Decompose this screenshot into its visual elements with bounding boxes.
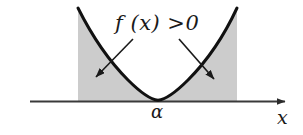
x-axis-label: x — [277, 108, 288, 127]
root-label-alpha: α — [151, 103, 163, 121]
math-figure-parabola: f (x) >0 α x — [0, 0, 303, 135]
function-positive-label: f (x) >0 — [115, 13, 199, 34]
